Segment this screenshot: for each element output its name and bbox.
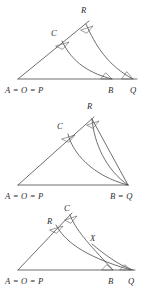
diagram-panel-2: C R A = O = P B = Q — [0, 100, 145, 204]
arc-X-to-Q — [92, 244, 133, 270]
label-A-O-P: A = O = P — [4, 276, 44, 286]
label-C: C — [64, 204, 70, 213]
angle-mark-B — [102, 265, 113, 270]
ray-A-to-C — [18, 213, 72, 270]
label-A-O-P: A = O = P — [4, 85, 44, 95]
arc-R-to-Q — [86, 24, 133, 79]
figure-stack: C R A = O = P B Q C R A = O = P — [0, 0, 145, 307]
label-R: R — [46, 216, 53, 226]
panel-2-canvas: C R A = O = P B = Q — [0, 100, 145, 204]
diagram-panel-3: R C X A = O = P B Q — [0, 204, 145, 307]
arc-R-to-Q — [56, 225, 131, 270]
diagram-panel-1: C R A = O = P B Q — [0, 0, 145, 100]
arc-C-to-B — [62, 41, 112, 79]
label-A-O-P: A = O = P — [4, 191, 44, 201]
label-X: X — [89, 233, 96, 243]
segment-R-to-BQ — [92, 119, 128, 185]
label-R: R — [80, 5, 87, 15]
label-B-Q: B = Q — [110, 191, 133, 201]
label-C: C — [51, 28, 57, 38]
label-B: B — [108, 85, 114, 95]
label-C: C — [57, 121, 63, 131]
label-B: B — [108, 276, 114, 286]
label-Q: Q — [128, 276, 135, 286]
panel-3-canvas: R C X A = O = P B Q — [0, 204, 145, 307]
ray-A-to-R — [18, 117, 94, 185]
label-Q: Q — [130, 85, 137, 95]
label-R: R — [86, 101, 93, 111]
panel-1-canvas: C R A = O = P B Q — [0, 0, 145, 100]
